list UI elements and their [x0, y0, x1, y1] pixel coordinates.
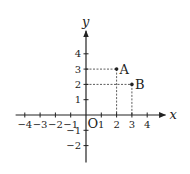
x-tick-label: −2 [48, 119, 63, 130]
x-tick-label: −3 [33, 119, 48, 130]
x-tick-label: 4 [144, 119, 150, 130]
y-tick-label: −1 [66, 125, 81, 136]
y-tick-label: −2 [66, 140, 81, 151]
point-a [115, 67, 119, 71]
x-tick-label: 1 [98, 119, 104, 130]
x-tick-label: 2 [113, 119, 119, 130]
point-b [130, 83, 134, 87]
y-tick-label: 4 [75, 48, 81, 59]
x-tick-label: 3 [129, 119, 135, 130]
point-label-a: A [119, 62, 130, 77]
coordinate-plane: −4−3−2−11234−2−11234 x y O AB [0, 0, 190, 174]
origin-label: O [88, 116, 99, 131]
x-tick-label: −4 [17, 119, 32, 130]
x-axis-label: x [170, 107, 178, 122]
point-label-b: B [135, 77, 145, 92]
y-axis-label: y [81, 14, 90, 29]
y-tick-label: 1 [75, 94, 81, 105]
y-tick-label: 3 [75, 64, 81, 75]
y-tick-label: 2 [75, 79, 81, 90]
